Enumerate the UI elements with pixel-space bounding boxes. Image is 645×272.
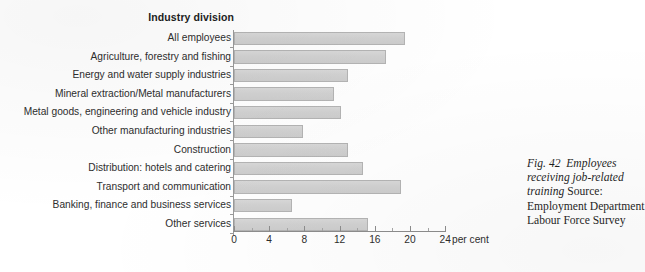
x-axis-tick-label: 12: [326, 234, 354, 245]
bar-track: [234, 87, 334, 101]
bar-row: Banking, finance and business services: [0, 197, 480, 216]
bar-category-label: All employees: [0, 32, 231, 44]
bar: [234, 199, 292, 213]
bar-category-label: Agriculture, forestry and fishing: [0, 51, 231, 63]
x-axis-tick-label: 8: [290, 234, 318, 245]
bar-row: Other manufacturing industries: [0, 123, 480, 142]
bar-chart: Industry division All employeesAgricultu…: [0, 0, 480, 272]
bar-row: Agriculture, forestry and fishing: [0, 49, 480, 68]
bar-track: [234, 162, 363, 176]
bar-category-label: Other services: [0, 218, 231, 230]
bar: [234, 125, 303, 139]
bar-category-label: Construction: [0, 144, 231, 156]
bar-category-label: Metal goods, engineering and vehicle ind…: [0, 106, 231, 118]
bar-row: Energy and water supply industries: [0, 67, 480, 86]
bar-category-label: Transport and communication: [0, 181, 231, 193]
bar-track: [234, 32, 405, 46]
bar-category-label: Mineral extraction/Metal manufacturers: [0, 88, 231, 100]
x-axis-minor-tick: [357, 228, 358, 231]
x-axis-minor-tick: [428, 228, 429, 231]
figure: Industry division All employeesAgricultu…: [0, 0, 645, 272]
bar-track: [234, 125, 303, 139]
y-axis-line: [233, 30, 234, 235]
x-axis-tick-label: 20: [396, 234, 424, 245]
bar-category-label: Energy and water supply industries: [0, 69, 231, 81]
bar-track: [234, 143, 348, 157]
bar: [234, 143, 348, 157]
bar-track: [234, 69, 348, 83]
x-axis-minor-tick: [252, 228, 253, 231]
bar-track: [234, 180, 401, 194]
bar-track: [234, 199, 292, 213]
x-axis-tick: [445, 226, 446, 231]
bar: [234, 50, 386, 64]
x-axis-tick: [269, 226, 270, 231]
figure-caption: Fig. 42 Employees receiving job-related …: [527, 157, 645, 228]
bar-row: Construction: [0, 142, 480, 161]
x-axis-tick-label: 0: [220, 234, 248, 245]
x-axis-tick-label: 4: [255, 234, 283, 245]
x-axis-tick: [410, 226, 411, 231]
x-axis-tick: [375, 226, 376, 231]
bar-category-label: Other manufacturing industries: [0, 125, 231, 137]
x-axis-minor-tick: [322, 228, 323, 231]
bar-category-label: Distribution: hotels and catering: [0, 162, 231, 174]
x-axis-line: [233, 231, 446, 232]
x-axis-minor-tick: [392, 228, 393, 231]
bar-row: Distribution: hotels and catering: [0, 160, 480, 179]
bar: [234, 87, 334, 101]
x-axis-minor-tick: [287, 228, 288, 231]
x-axis-tick: [304, 226, 305, 231]
bar-track: [234, 218, 368, 232]
bar: [234, 180, 401, 194]
bar: [234, 32, 405, 46]
bar: [234, 106, 341, 120]
bar: [234, 162, 363, 176]
bar: [234, 69, 348, 83]
bar-row: All employees: [0, 30, 480, 49]
bar-row: Transport and communication: [0, 179, 480, 198]
bar-track: [234, 106, 341, 120]
bar-row: Mineral extraction/Metal manufacturers: [0, 86, 480, 105]
x-axis-tick: [340, 226, 341, 231]
bar-row: Metal goods, engineering and vehicle ind…: [0, 104, 480, 123]
x-axis-tick: [234, 226, 235, 231]
bar: [234, 218, 368, 232]
bar-track: [234, 50, 386, 64]
x-axis-tick-label: 16: [361, 234, 389, 245]
x-axis-unit-label: per cent: [452, 234, 489, 245]
bar-category-label: Banking, finance and business services: [0, 199, 231, 211]
